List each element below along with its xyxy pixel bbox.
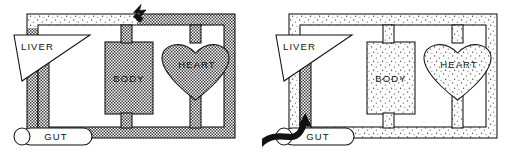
- body-label: BODY: [375, 73, 406, 84]
- portal-dose-panel: BODY HEART LIVER GUT: [262, 0, 524, 167]
- body-label: BODY: [113, 73, 144, 84]
- heart-inlet: [452, 25, 463, 43]
- gut-end-cap: [14, 128, 30, 145]
- heart-label: HEART: [178, 59, 216, 70]
- body-inlet: [383, 25, 394, 43]
- liver-label: LIVER: [283, 41, 316, 52]
- liver-label: LIVER: [21, 41, 54, 52]
- gut-label: GUT: [44, 131, 67, 142]
- heart-label: HEART: [440, 59, 478, 70]
- heart-inlet: [190, 25, 201, 43]
- organ-gut: GUT: [14, 128, 92, 145]
- body-outlet: [121, 113, 132, 128]
- figure-canvas: BODY HEART LIVER GUT: [0, 0, 524, 167]
- oral-dose-panel: BODY HEART LIVER GUT: [0, 0, 262, 167]
- gut-label: GUT: [306, 131, 329, 142]
- body-inlet: [121, 25, 132, 43]
- body-outlet: [383, 113, 394, 128]
